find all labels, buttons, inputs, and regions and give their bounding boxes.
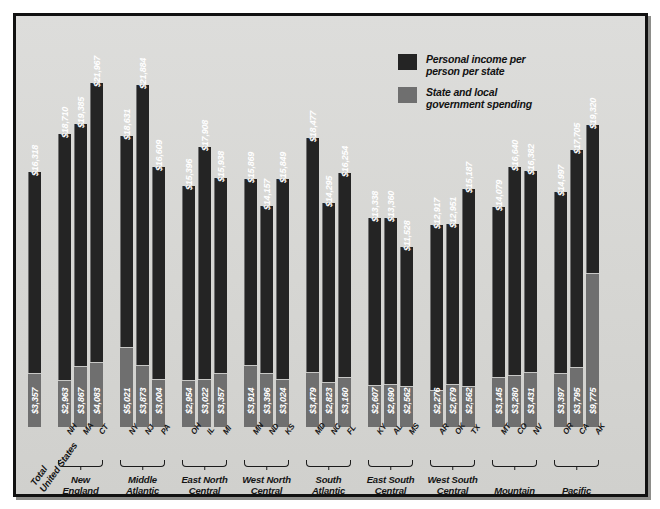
state-tick-labels: AROKTX <box>430 429 475 459</box>
state-tick: MT <box>492 429 505 459</box>
legend-swatch-government <box>398 87 417 103</box>
bar[interactable]: $18,710$2,963 <box>58 134 71 427</box>
state-tick: ND <box>260 429 273 459</box>
group-bracket <box>120 460 165 467</box>
bar[interactable]: $14,997$3,397 <box>554 192 567 427</box>
chart-frame: $16,318$3,357TotalUnited States$18,710$2… <box>13 13 648 497</box>
bar-value-label-income: $15,869 <box>246 152 255 183</box>
bar-segment-government <box>586 273 599 427</box>
state-tick-labels: NHMACT <box>58 429 103 459</box>
bar-value-label-income: $21,884 <box>138 58 147 89</box>
bar-group: $18,631$5,021$21,884$3,873$16,609$3,004N… <box>120 16 165 500</box>
bar-value-label-income: $14,157 <box>262 179 271 210</box>
state-tick: IL <box>198 429 211 459</box>
bar-value-label-income: $12,951 <box>448 197 457 228</box>
bar[interactable]: $16,640$3,280 <box>508 167 521 427</box>
state-tick: MA <box>74 429 87 459</box>
bar-value-label-income: $18,631 <box>122 109 131 140</box>
bar-segment-government <box>28 373 41 427</box>
bar-segment-government <box>492 377 505 427</box>
bar[interactable]: $15,938$3,357 <box>214 178 227 427</box>
group-bracket <box>306 460 351 467</box>
bar-segment-government <box>570 367 583 427</box>
state-tick <box>28 429 41 459</box>
state-tick: KY <box>368 429 381 459</box>
bar[interactable]: $13,338$2,607 <box>368 218 381 427</box>
state-tick-labels: MDNCFL <box>306 429 351 459</box>
bar[interactable]: $18,631$5,021 <box>120 136 133 427</box>
state-tick: OK <box>446 429 459 459</box>
bar-value-label-income: $13,360 <box>386 191 395 222</box>
bar[interactable]: $17,908$3,022 <box>198 147 211 427</box>
bar[interactable]: $13,360$2,690 <box>384 218 397 427</box>
bar-segment-government <box>322 382 335 427</box>
bar-segment-government <box>524 372 537 427</box>
bars: $15,396$2,954$17,908$3,022$15,938$3,357 <box>182 27 227 427</box>
legend-swatch-income <box>398 54 417 70</box>
bar[interactable]: $11,528$2,562 <box>400 247 413 427</box>
bar-segment-government <box>198 379 211 427</box>
bars: $16,318$3,357 <box>28 27 41 427</box>
bar-value-label-income: $17,705 <box>572 123 581 154</box>
bar[interactable]: $16,609$3,004 <box>152 167 165 427</box>
bar-segment-government <box>276 379 289 427</box>
bar[interactable]: $14,295$2,823 <box>322 203 335 427</box>
bar[interactable]: $19,320$9,775 <box>586 125 599 427</box>
bar-group: $14,997$3,397$17,705$3,795$19,320$9,775O… <box>554 16 599 500</box>
bar-value-label-income: $16,382 <box>526 144 535 175</box>
bar[interactable]: $12,917$2,276 <box>430 225 443 427</box>
state-tick: CT <box>90 429 103 459</box>
bar-value-label-income: $17,908 <box>200 120 209 151</box>
state-tick: CA <box>570 429 583 459</box>
state-tick: TX <box>462 429 475 459</box>
bar[interactable]: $14,079$3,145 <box>492 207 505 427</box>
legend-item-income: Personal income per person per state <box>398 53 532 77</box>
state-tick-labels: OHILMI <box>182 429 227 459</box>
bar-value-label-income: $15,396 <box>184 159 193 190</box>
bar[interactable]: $15,849$3,024 <box>276 179 289 427</box>
state-tick-labels: MTCONV <box>492 429 537 459</box>
bar[interactable]: $16,382$3,431 <box>524 171 537 427</box>
group-bracket <box>368 460 413 467</box>
bar-group: $15,869$3,914$14,157$3,396$15,849$3,024M… <box>244 16 289 500</box>
group-bracket <box>244 460 289 467</box>
state-tick: MN <box>244 429 257 459</box>
bar-group: $18,710$2,963$19,385$3,867$21,967$4,083N… <box>58 16 103 500</box>
bar-group: $16,318$3,357TotalUnited States <box>28 16 41 500</box>
state-tick: KS <box>276 429 289 459</box>
state-tick-labels: ORCAAK <box>554 429 599 459</box>
bar-value-label-income: $15,849 <box>278 152 287 183</box>
bar-segment-government <box>338 377 351 427</box>
bar[interactable]: $15,396$2,954 <box>182 186 195 427</box>
bar-segment-government <box>368 385 381 427</box>
state-tick-labels: KYALMS <box>368 429 413 459</box>
bar[interactable]: $21,884$3,873 <box>136 85 149 427</box>
bar[interactable]: $17,705$3,795 <box>570 150 583 427</box>
bar[interactable]: $16,254$3,160 <box>338 173 351 427</box>
bar-value-label-income: $18,477 <box>308 111 317 142</box>
state-tick: NJ <box>136 429 149 459</box>
group-bracket <box>58 460 103 467</box>
bar[interactable]: $15,869$3,914 <box>244 179 257 427</box>
bar[interactable]: $15,187$2,562 <box>462 189 475 427</box>
state-tick: OR <box>554 429 567 459</box>
bar-segment-government <box>90 362 103 427</box>
legend-label-income: Personal income per person per state <box>426 53 526 77</box>
state-tick: MD <box>306 429 319 459</box>
bar[interactable]: $21,967$4,083 <box>90 83 103 427</box>
bar-value-label-income: $19,385 <box>76 97 85 128</box>
bar-value-label-income: $19,320 <box>588 98 597 129</box>
bar[interactable]: $19,385$3,867 <box>74 124 87 427</box>
legend-item-government: State and local government spending <box>398 86 532 110</box>
bar-segment-government <box>400 386 413 427</box>
bar-segment-government <box>182 380 195 427</box>
bar[interactable]: $14,157$3,396 <box>260 206 273 427</box>
bar[interactable]: $18,477$3,479 <box>306 138 319 427</box>
state-tick: AK <box>586 429 599 459</box>
bar[interactable]: $12,951$2,679 <box>446 224 459 427</box>
bar[interactable]: $16,318$3,357 <box>28 172 41 427</box>
bar-segment-government <box>446 384 459 427</box>
bar-value-label-income: $14,997 <box>556 165 565 196</box>
bar-value-label-income: $11,528 <box>402 221 411 251</box>
bar-segment-government <box>462 386 475 427</box>
